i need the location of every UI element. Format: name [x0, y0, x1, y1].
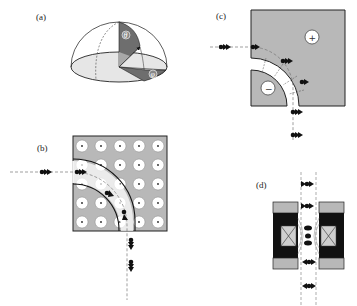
panel-b: (b) [10, 136, 167, 300]
negative-sign: − [265, 84, 273, 94]
panel-a: (a) θ φ [36, 12, 167, 82]
panel-c: (c) + − [210, 10, 345, 140]
figure-canvas: (a) θ φ (c) + − [0, 0, 357, 306]
phi-symbol: φ [151, 70, 156, 79]
panel-a-label: (a) [36, 12, 46, 22]
right-top-pole-piece [319, 202, 344, 213]
particles-d [301, 181, 316, 289]
positive-sign: + [309, 33, 317, 43]
right-bottom-pole-piece [319, 258, 344, 269]
panel-c-label: (c) [216, 11, 226, 21]
panel-d: (d) [256, 172, 344, 306]
theta-symbol: θ [124, 31, 128, 40]
left-top-pole-piece [273, 202, 298, 213]
panel-b-label: (b) [37, 143, 48, 153]
panel-d-label: (d) [256, 180, 267, 190]
left-bottom-pole-piece [273, 258, 298, 269]
